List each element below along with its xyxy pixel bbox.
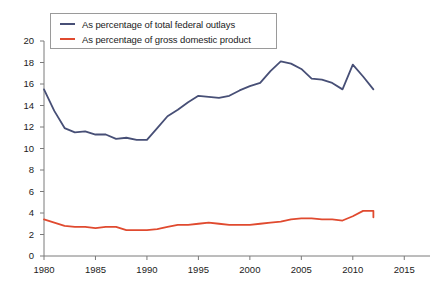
legend-item-gross-domestic-product: As percentage of gross domestic product [60, 32, 251, 46]
series-line [44, 61, 373, 139]
y-axis-tick-label: 8 [10, 164, 34, 175]
x-axis-tick-label: 1990 [127, 264, 167, 275]
chart-series-lines [44, 61, 373, 230]
y-axis-tick-label: 2 [10, 229, 34, 240]
y-axis-tick-label: 18 [10, 57, 34, 68]
x-axis-tick-label: 2000 [230, 264, 270, 275]
x-axis-tick-label: 1980 [24, 264, 64, 275]
legend-swatch-icon [60, 38, 75, 40]
legend-item-label: As percentage of total federal outlays [82, 19, 235, 30]
axes [44, 41, 430, 256]
legend-item-label: As percentage of gross domestic product [82, 34, 251, 45]
x-axis-tick-label: 2015 [384, 264, 424, 275]
x-axis-tick-marks [44, 256, 404, 260]
x-axis-tick-label: 1985 [75, 264, 115, 275]
x-axis-tick-label: 2010 [333, 264, 373, 275]
series-line [44, 211, 373, 230]
y-axis-tick-label: 12 [10, 121, 34, 132]
y-axis-tick-marks [40, 41, 44, 256]
x-axis-tick-label: 2005 [281, 264, 321, 275]
y-axis-tick-label: 6 [10, 186, 34, 197]
y-axis-tick-label: 14 [10, 100, 34, 111]
legend-item-total-federal-outlays: As percentage of total federal outlays [60, 17, 235, 31]
x-axis-tick-label: 1995 [178, 264, 218, 275]
y-axis-tick-label: 16 [10, 78, 34, 89]
legend-swatch-icon [60, 23, 75, 25]
chart-legend: As percentage of total federal outlays A… [50, 13, 277, 49]
y-axis-tick-label: 20 [10, 35, 34, 46]
y-axis-tick-label: 0 [10, 250, 34, 261]
chart-container: 02468101214161820 1980198519901995200020… [0, 0, 443, 288]
y-axis-tick-label: 4 [10, 207, 34, 218]
y-axis-tick-label: 10 [10, 143, 34, 154]
